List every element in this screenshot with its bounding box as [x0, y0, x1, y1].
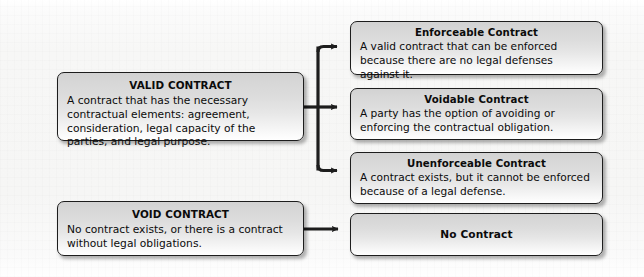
node-unenforceable-contract-description: A contract exists, but it cannot be enfo… — [360, 171, 593, 198]
node-no-contract[interactable]: No Contract — [350, 213, 603, 256]
node-enforceable-contract-title: Enforceable Contract — [360, 27, 593, 39]
node-valid-contract-description: A contract that has the necessary contra… — [67, 94, 294, 150]
node-no-contract-title: No Contract — [440, 228, 512, 241]
node-void-contract-description: No contract exists, or there is a contra… — [67, 223, 294, 251]
diagram-canvas: VALID CONTRACT A contract that has the n… — [0, 0, 644, 277]
node-voidable-contract-title: Voidable Contract — [360, 94, 593, 106]
node-valid-contract-title: VALID CONTRACT — [67, 79, 294, 92]
node-voidable-contract-description: A party has the option of avoiding or en… — [360, 107, 593, 134]
connector-valid-to-unenforceable — [318, 165, 337, 171]
node-enforceable-contract-description: A valid contract that can be enforced be… — [360, 40, 593, 81]
node-voidable-contract[interactable]: Voidable Contract A party has the option… — [350, 88, 603, 140]
node-valid-contract[interactable]: VALID CONTRACT A contract that has the n… — [57, 72, 304, 141]
node-unenforceable-contract[interactable]: Unenforceable Contract A contract exists… — [350, 152, 603, 204]
node-void-contract-title: VOID CONTRACT — [67, 208, 294, 221]
node-unenforceable-contract-title: Unenforceable Contract — [360, 158, 593, 170]
node-enforceable-contract[interactable]: Enforceable Contract A valid contract th… — [350, 21, 603, 75]
node-void-contract[interactable]: VOID CONTRACT No contract exists, or the… — [57, 201, 304, 256]
connector-valid-to-enforceable — [318, 47, 337, 53]
